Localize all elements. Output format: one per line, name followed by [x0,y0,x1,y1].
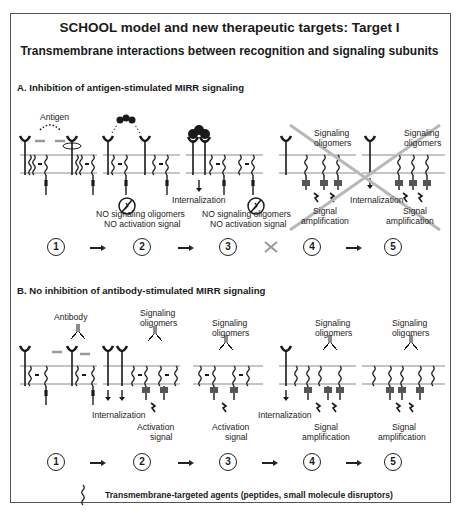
amplification-label: amplification [301,216,349,226]
amplification-label: amplification [378,432,426,442]
arrow-icon [90,247,102,249]
signal-label: Signal [313,206,337,216]
oligomers-label: oligomers [315,328,352,338]
step-4-badge: 4 [303,453,321,471]
oligomers-label: oligomers [404,138,441,148]
signal-label: Signal [392,422,416,432]
step-3-badge: 3 [219,238,237,256]
signal-label: signal [150,432,172,442]
oligomers-label: oligomers [140,318,177,328]
signaling-label: Signaling [140,308,175,318]
signaling-label: Signaling [314,128,349,138]
panel-b-state-1 [20,324,95,405]
arrow-icon [346,247,358,249]
panel-b-state-3 [199,335,250,412]
no-activation-label: NO activation signal [104,219,180,229]
activation-label: Activation [212,422,249,432]
internalization-label: Internalization [172,195,226,205]
arrow-icon [346,462,358,464]
step-5-badge: 5 [384,238,402,256]
signaling-label: Signaling [392,318,427,328]
arrow-icon [178,462,190,464]
blocked-transition-icon [265,242,277,252]
no-oligomers-label: NO signaling oligomers [96,209,185,219]
signaling-label: Signaling [404,128,439,138]
oligomers-label: oligomers [314,138,351,148]
panel-b-heading: B. No inhibition of antibody-stimulated … [17,285,265,296]
step-3-badge: 3 [219,453,237,471]
amplification-label: amplification [302,432,350,442]
panel-b-state-5 [373,335,435,412]
no-oligomers-label: NO signaling oligomers [202,209,291,219]
antibody-label: Antibody [54,312,87,322]
signal-label: Signal [403,206,427,216]
signaling-label: Signaling [212,318,247,328]
step-2-badge: 2 [133,238,151,256]
oligomers-label: oligomers [392,328,429,338]
panel-a-state-2 [103,115,169,215]
arrow-icon [178,247,190,249]
internalization-label: Internalization [258,410,312,420]
panel-a-membranes [20,155,445,173]
signaling-label: Signaling [315,318,350,328]
step-1-badge: 1 [47,453,65,471]
amplification-label: amplification [386,216,434,226]
no-activation-label: NO activation signal [210,219,286,229]
panel-b-state-4 [281,335,344,412]
step-2-badge: 2 [133,453,151,471]
activation-label: Activation [137,422,174,432]
signal-label: Signal [314,422,338,432]
panel-b-state-2 [103,326,177,412]
antigen-label: Antigen [40,112,69,122]
oligomers-label: oligomers [212,328,249,338]
legend-text: Transmembrane-targeted agents (peptides,… [105,490,393,500]
signal-label: signal [225,432,247,442]
internalization-label: Internalization [92,410,146,420]
step-1-badge: 1 [47,238,65,256]
internalization-label: Internalization [350,195,404,205]
panel-a-state-1 [20,125,95,195]
step-5-badge: 5 [384,453,402,471]
legend-wavy-icon [82,485,85,505]
arrow-icon [262,462,274,464]
step-4-badge: 4 [303,238,321,256]
arrow-icon [90,462,102,464]
